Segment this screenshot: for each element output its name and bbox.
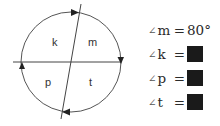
arrow-up-icon	[19, 62, 25, 69]
angle-name: p	[157, 70, 166, 86]
angle-label-t: ∠t	[148, 94, 172, 110]
angle-icon: ∠	[148, 25, 156, 36]
angle-icon: ∠	[148, 49, 156, 60]
region-label-k: k	[52, 36, 58, 48]
equation-list: ∠m = 80° ∠k = ∠p = ∠t =	[148, 18, 220, 114]
answer-box-p[interactable]	[187, 70, 203, 86]
equation-t: ∠t =	[148, 90, 220, 114]
equation-k: ∠k =	[148, 42, 220, 66]
arrow-right-icon	[71, 9, 79, 16]
angle-diagram: k m p t	[0, 0, 130, 126]
angle-label-m: ∠m	[148, 22, 172, 38]
equals-sign: =	[172, 70, 187, 86]
angle-icon: ∠	[148, 73, 156, 84]
equals-sign: =	[172, 22, 187, 38]
equals-sign: =	[172, 46, 187, 62]
region-label-p: p	[45, 76, 51, 88]
angle-label-k: ∠k	[148, 46, 172, 62]
angle-label-p: ∠p	[148, 70, 172, 86]
region-label-t: t	[89, 76, 92, 88]
angle-value-m: 80°	[187, 22, 211, 38]
equation-m: ∠m = 80°	[148, 18, 220, 42]
equation-p: ∠p =	[148, 66, 220, 90]
arrow-left-icon	[62, 109, 70, 116]
answer-box-t[interactable]	[187, 94, 203, 110]
angle-name: t	[157, 94, 162, 110]
region-label-m: m	[88, 36, 97, 48]
arrow-down-icon	[118, 57, 125, 64]
angle-name: m	[157, 22, 170, 38]
answer-box-k[interactable]	[187, 46, 203, 62]
angle-name: k	[157, 46, 165, 62]
angle-icon: ∠	[148, 97, 156, 108]
equals-sign: =	[172, 94, 187, 110]
